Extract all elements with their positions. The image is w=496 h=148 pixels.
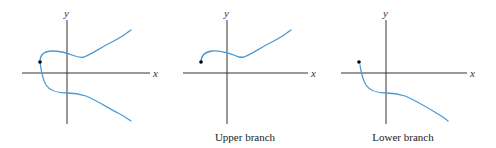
upper-branch-curve	[201, 30, 291, 62]
lower-branch-curve	[40, 62, 131, 121]
x-axis-label: x	[152, 67, 158, 79]
x-axis-label: x	[310, 67, 316, 79]
y-axis-label: y	[63, 7, 69, 19]
figure-canvas: x y x y Upper branch x y Lower branch	[0, 0, 496, 148]
panel-caption: Lower branch	[372, 131, 434, 143]
panel-caption: Upper branch	[215, 131, 276, 143]
panel-upper-branch: x y Upper branch	[183, 7, 316, 143]
start-point-dot	[199, 60, 203, 64]
x-axis-label: x	[469, 67, 475, 79]
upper-branch-curve	[40, 30, 131, 62]
y-axis-label: y	[382, 7, 388, 19]
panel-lower-branch: x y Lower branch	[341, 7, 475, 143]
start-point-dot	[38, 60, 42, 64]
y-axis-label: y	[223, 7, 229, 19]
start-point-dot	[357, 60, 361, 64]
panel-full-curve: x y	[22, 7, 158, 124]
